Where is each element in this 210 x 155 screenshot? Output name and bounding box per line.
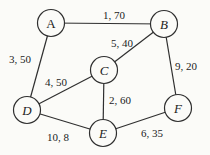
edge-label-B-F: 9, 20 bbox=[175, 60, 198, 72]
node-label-A: A bbox=[46, 16, 56, 31]
edge-label-E-F: 6, 35 bbox=[141, 127, 164, 139]
edge-label-C-D: 4, 50 bbox=[45, 76, 68, 88]
node-label-F: F bbox=[173, 101, 183, 116]
edge-label-A-D: 3, 50 bbox=[9, 53, 32, 65]
edge-label-C-E: 2, 60 bbox=[109, 94, 132, 106]
node-label-C: C bbox=[100, 63, 109, 78]
graph-canvas: 1, 703, 505, 409, 204, 502, 6010, 86, 35… bbox=[0, 0, 210, 155]
node-label-D: D bbox=[21, 103, 32, 118]
edge-label-B-C: 5, 40 bbox=[111, 37, 134, 49]
edge-label-D-E: 10, 8 bbox=[47, 131, 70, 143]
node-label-B: B bbox=[160, 17, 168, 32]
graph-figure: 1, 703, 505, 409, 204, 502, 6010, 86, 35… bbox=[0, 0, 210, 155]
edge-A-B bbox=[51, 23, 164, 24]
nodes-layer: ABCDEF bbox=[14, 10, 192, 147]
edge-label-A-B: 1, 70 bbox=[103, 9, 126, 21]
node-label-E: E bbox=[98, 126, 107, 141]
